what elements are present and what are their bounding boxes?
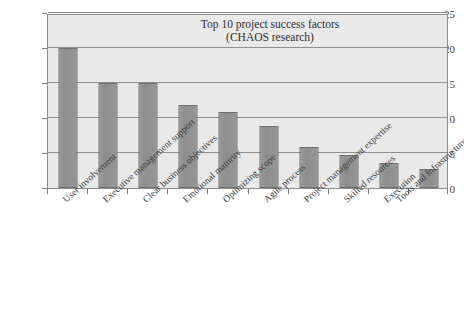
chart-title-line2: (CHAOS research): [160, 31, 380, 44]
chart-title-line1: Top 10 project success factors: [160, 18, 380, 31]
x-axis-tick: [87, 189, 88, 194]
x-axis-tick: [207, 189, 208, 194]
x-axis-tick: [447, 189, 448, 194]
x-axis-tick: [368, 189, 369, 194]
x-axis-tick: [248, 189, 249, 194]
x-axis-tick: [328, 189, 329, 194]
x-axis-tick: [288, 189, 289, 194]
gridline: [48, 12, 447, 13]
chart-title: Top 10 project success factors (CHAOS re…: [160, 18, 380, 44]
x-axis-tick: [47, 189, 48, 194]
x-axis-category-labels: User involvementExecutive management sup…: [0, 195, 464, 321]
bar-slot: [48, 15, 88, 188]
bar[interactable]: [59, 48, 78, 188]
y-axis-tick-label: 0: [450, 184, 456, 195]
bar-chart: 0510152025 Top 10 project success factor…: [0, 0, 464, 321]
x-axis-tick: [127, 189, 128, 194]
x-axis-tick: [167, 189, 168, 194]
